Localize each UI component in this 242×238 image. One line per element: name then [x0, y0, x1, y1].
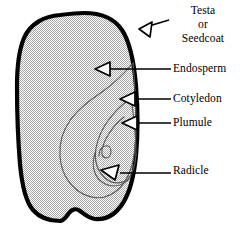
seed-diagram-page: Testa or Seedcoat Endosperm Cotyledon Pl… [0, 0, 242, 238]
label-endosperm: Endosperm [173, 62, 226, 75]
label-cotyledon: Cotyledon [173, 92, 222, 105]
arrowhead-testa-icon [139, 22, 152, 37]
label-testa-or-seedcoat: Testa or Seedcoat [166, 3, 240, 45]
label-testa-line-3: Seedcoat [166, 31, 240, 45]
label-testa-line-2: or [166, 17, 240, 31]
pointer-testa [139, 20, 169, 37]
label-plumule: Plumule [173, 116, 212, 129]
label-testa-line-1: Testa [166, 3, 240, 17]
label-radicle: Radicle [173, 164, 209, 177]
